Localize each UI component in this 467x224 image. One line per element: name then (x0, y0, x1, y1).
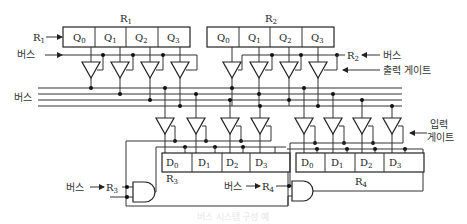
r3-and-gate: 버스 R3 (66, 182, 156, 202)
register-r1: R1 Q0 Q1 Q2 Q3 (63, 13, 190, 47)
r4-input-gates (295, 118, 403, 153)
r1-bus-label: 버스 (17, 49, 35, 60)
r3-control-label: R3 (106, 182, 118, 195)
r3-bus-label: 버스 (66, 182, 84, 193)
and-gate-icon (133, 182, 155, 202)
register-r1-title: R1 (120, 13, 132, 26)
system-bus: 버스 (14, 88, 402, 106)
figure-caption: 버스 시스템 구성 예 (197, 211, 270, 222)
register-r4: D0 D1 D2 D3 R4 (296, 153, 424, 189)
output-gate-label: 출력 게이트 (383, 65, 431, 76)
register-r2: R2 Q0 Q1 Q2 Q3 (207, 13, 334, 47)
register-r4-title: R4 (355, 176, 368, 189)
r2-control-label: R2 (347, 50, 359, 63)
r1-input-label: R1 (33, 32, 45, 45)
input-gate-label-line1: 입력 (430, 118, 448, 130)
r2-bus-label: 버스 (383, 50, 401, 61)
r4-bus-label: 버스 (224, 181, 242, 192)
register-r3-title: R3 (166, 173, 178, 186)
r1-output-gates (82, 47, 197, 106)
register-r2-title: R2 (265, 13, 277, 26)
input-gate-label-line2: 게이트 (427, 132, 454, 143)
bus-system-diagram: R1 Q0 Q1 Q2 Q3 R1 버스 (0, 0, 467, 224)
r4-and-gate: 버스 R4 (224, 181, 313, 206)
r2-output-gates (223, 47, 337, 106)
bus-label: 버스 (14, 92, 32, 103)
and-gate-icon (292, 181, 313, 201)
r4-control-label: R4 (262, 181, 275, 194)
